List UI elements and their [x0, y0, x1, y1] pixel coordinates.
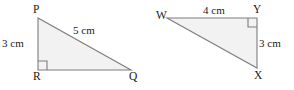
- geometry-figure: P Q R 3 cm 5 cm W X Y 4 cm 3 cm: [0, 0, 294, 90]
- vertex-label-r: R: [33, 71, 41, 83]
- side-label-pr: 3 cm: [2, 38, 24, 49]
- side-label-wy: 4 cm: [203, 5, 225, 16]
- side-label-pq: 5 cm: [73, 25, 95, 36]
- vertex-label-y: Y: [253, 4, 261, 16]
- side-label-yx: 3 cm: [259, 38, 281, 49]
- vertex-label-q: Q: [129, 71, 137, 83]
- geometry-canvas: [0, 0, 294, 90]
- vertex-label-x: X: [254, 70, 262, 82]
- vertex-label-w: W: [156, 10, 167, 22]
- vertex-label-p: P: [33, 4, 39, 16]
- triangle-wxy-shape: [167, 18, 257, 68]
